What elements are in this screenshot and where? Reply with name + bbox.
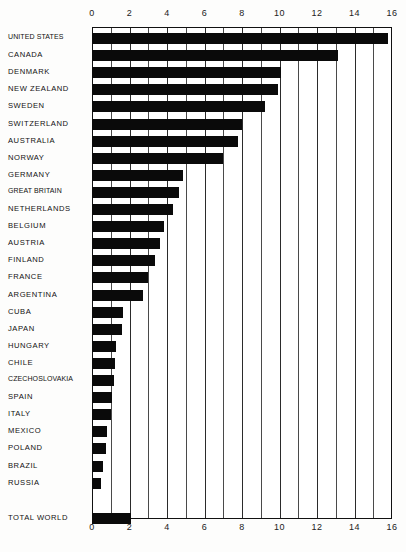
category-label: CZECHOSLOVAKIA: [8, 375, 88, 382]
bar: [92, 119, 242, 130]
category-label: CUBA: [8, 307, 88, 316]
bar: [92, 204, 173, 215]
bar-row: POLAND: [0, 440, 406, 458]
category-label: ARGENTINA: [8, 290, 88, 299]
bar-row: JAPAN: [0, 321, 406, 339]
category-label: GERMANY: [8, 170, 88, 179]
bar: [92, 101, 265, 112]
bar: [92, 255, 155, 266]
bar: [92, 409, 111, 420]
bar-chart: 0246810121416 UNITED STATESCANADADENMARK…: [0, 0, 406, 552]
bar-row: SWEDEN: [0, 98, 406, 116]
bar: [92, 375, 114, 386]
bar-row: HUNGARY: [0, 338, 406, 356]
bar: [92, 358, 115, 369]
bar: [92, 50, 338, 61]
bar: [92, 187, 179, 198]
bar: [92, 136, 238, 147]
category-label: FINLAND: [8, 255, 88, 264]
bar-row: FRANCE: [0, 269, 406, 287]
bar: [92, 221, 164, 232]
bar-row: RUSSIA: [0, 475, 406, 493]
bar: [92, 341, 116, 352]
category-label: RUSSIA: [8, 478, 88, 487]
bar: [92, 290, 143, 301]
bar: [92, 238, 160, 249]
bar-row: CANADA: [0, 47, 406, 65]
category-label: AUSTRIA: [8, 238, 88, 247]
bar-row: AUSTRIA: [0, 235, 406, 253]
x-axis-tick-label: 2: [127, 522, 133, 532]
category-label: UNITED STATES: [8, 33, 88, 40]
x-axis-tick-label: 14: [349, 522, 360, 532]
bar: [92, 153, 223, 164]
category-label: MEXICO: [8, 426, 88, 435]
x-axis-tick-label: 0: [89, 522, 95, 532]
bar-row: SPAIN: [0, 389, 406, 407]
category-label: ITALY: [8, 409, 88, 418]
category-label: NETHERLANDS: [8, 204, 88, 213]
bar-row: NORWAY: [0, 150, 406, 168]
bar-row: NETHERLANDS: [0, 201, 406, 219]
x-axis-tick-label: 12: [311, 522, 322, 532]
x-axis-tick-label: 4: [164, 522, 170, 532]
category-label: SWEDEN: [8, 101, 88, 110]
bar-rows: UNITED STATESCANADADENMARKNEW ZEALANDSWE…: [0, 0, 406, 552]
category-label: TOTAL WORLD: [8, 513, 88, 522]
bar-row: FINLAND: [0, 252, 406, 270]
bar-row: ITALY: [0, 406, 406, 424]
category-label: HUNGARY: [8, 341, 88, 350]
category-label: FRANCE: [8, 272, 88, 281]
bar: [92, 307, 123, 318]
category-label: BRAZIL: [8, 461, 88, 470]
bar: [92, 392, 112, 403]
category-label: CANADA: [8, 50, 88, 59]
bar: [92, 84, 278, 95]
bar: [92, 272, 148, 283]
bar-row: ARGENTINA: [0, 287, 406, 305]
bar: [92, 478, 101, 489]
category-label: CHILE: [8, 358, 88, 367]
bar-row: GERMANY: [0, 167, 406, 185]
category-label: JAPAN: [8, 324, 88, 333]
bar-row: NEW ZEALAND: [0, 81, 406, 99]
category-label: NORWAY: [8, 153, 88, 162]
category-label: AUSTRALIA: [8, 136, 88, 145]
bar-row: MEXICO: [0, 423, 406, 441]
category-label: NEW ZEALAND: [8, 84, 88, 93]
bar-row: SWITZERLAND: [0, 116, 406, 134]
bar-row: DENMARK: [0, 64, 406, 82]
bar: [92, 461, 103, 472]
category-label: POLAND: [8, 443, 88, 452]
bar-row: CUBA: [0, 304, 406, 322]
bar: [92, 33, 388, 44]
category-label: BELGIUM: [8, 221, 88, 230]
x-axis-tick-label: 16: [386, 522, 397, 532]
bar: [92, 67, 281, 78]
x-axis-tick-label: 10: [274, 522, 285, 532]
category-label: DENMARK: [8, 67, 88, 76]
bar: [92, 324, 122, 335]
bar: [92, 170, 183, 181]
x-axis-tick-label: 8: [239, 522, 245, 532]
x-axis-bottom: 0246810121416: [92, 522, 392, 536]
bar: [92, 426, 107, 437]
bar-row: CZECHOSLOVAKIA: [0, 372, 406, 390]
x-axis-tick-label: 6: [202, 522, 208, 532]
bar-row: BRAZIL: [0, 458, 406, 476]
bar-row: GREAT BRITAIN: [0, 184, 406, 202]
bar-row: BELGIUM: [0, 218, 406, 236]
bar-row: AUSTRALIA: [0, 133, 406, 151]
category-label: SPAIN: [8, 392, 88, 401]
category-label: GREAT BRITAIN: [8, 187, 88, 194]
bar-row: CHILE: [0, 355, 406, 373]
category-label: SWITZERLAND: [8, 119, 88, 128]
bar-row: UNITED STATES: [0, 30, 406, 48]
bar: [92, 443, 106, 454]
